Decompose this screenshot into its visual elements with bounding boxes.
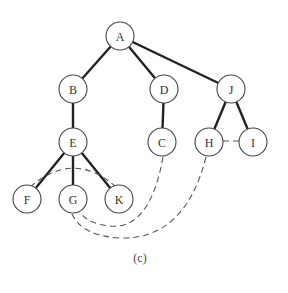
node-J: J — [217, 75, 245, 103]
figure-caption: (c) — [133, 251, 146, 265]
node-G: G — [59, 185, 87, 213]
dfs-tree-diagram: ABDJECHIFGK (c) — [0, 0, 288, 293]
node-label: D — [160, 83, 169, 97]
back-edge-H-G — [72, 157, 206, 238]
node-B: B — [59, 75, 87, 103]
tree-edge-J-H — [214, 102, 225, 129]
node-label: H — [205, 136, 214, 150]
node-E: E — [59, 128, 87, 156]
node-label: J — [229, 83, 234, 97]
node-A: A — [106, 22, 134, 50]
node-H: H — [195, 128, 223, 156]
tree-edge-A-J — [133, 42, 219, 83]
node-D: D — [150, 75, 178, 103]
node-label: B — [69, 83, 77, 97]
tree-edge-A-B — [82, 46, 110, 78]
node-label: C — [158, 136, 166, 150]
node-I: I — [239, 128, 267, 156]
node-C: C — [148, 128, 176, 156]
node-label: F — [24, 193, 31, 207]
node-label: A — [116, 30, 125, 44]
tree-edge-D-C — [163, 103, 164, 128]
node-label: G — [69, 193, 78, 207]
tree-edge-J-I — [236, 102, 247, 129]
nodes: ABDJECHIFGK — [13, 22, 267, 213]
node-label: E — [69, 136, 76, 150]
node-label: I — [251, 136, 255, 150]
node-K: K — [105, 185, 133, 213]
tree-edge-E-K — [82, 153, 110, 188]
node-F: F — [13, 185, 41, 213]
tree-edges — [36, 42, 248, 188]
node-label: K — [115, 193, 124, 207]
